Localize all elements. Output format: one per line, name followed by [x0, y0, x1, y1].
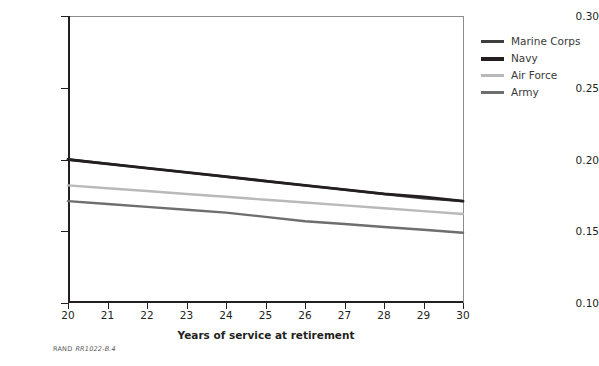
figure-footer: RANDRR1022-B.4: [53, 345, 116, 353]
legend-swatch-icon: [481, 40, 504, 43]
figure-container: 0.100.150.200.250.30 2021222324252627282…: [0, 0, 599, 366]
rand-wordmark: RAND: [53, 345, 72, 353]
legend-item-label: Army: [511, 87, 539, 98]
x-tick-label: 21: [93, 310, 123, 321]
legend-item-label: Marine Corps: [511, 36, 580, 47]
x-tick-label: 24: [211, 310, 241, 321]
y-tick-mark: [61, 303, 68, 304]
legend-item-label: Air Force: [511, 70, 557, 81]
x-tick-label: 29: [409, 310, 439, 321]
x-axis-title: Years of service at retirement: [68, 329, 464, 341]
y-tick-label: 0.30: [545, 11, 599, 22]
document-id: RR1022-B.4: [75, 345, 116, 353]
x-tick-label: 28: [369, 310, 399, 321]
plot-area: [68, 16, 463, 303]
x-tick-label: 30: [448, 310, 478, 321]
y-tick-mark: [61, 88, 68, 89]
legend-swatch-icon: [481, 91, 504, 94]
x-tick-label: 26: [290, 310, 320, 321]
x-tick-label: 22: [132, 310, 162, 321]
legend-item: Marine Corps: [481, 33, 580, 50]
legend-swatch-icon: [481, 57, 504, 61]
x-tick-label: 20: [53, 310, 83, 321]
y-tick-mark: [61, 231, 68, 232]
y-tick-label: 0.15: [545, 226, 599, 237]
y-tick-mark: [61, 160, 68, 161]
x-tick-label: 27: [330, 310, 360, 321]
legend-item: Air Force: [481, 67, 580, 84]
x-tick-label: 23: [172, 310, 202, 321]
x-tick-label: 25: [251, 310, 281, 321]
legend-item-label: Navy: [511, 53, 538, 64]
legend-swatch-icon: [481, 74, 504, 77]
chart-legend: Marine CorpsNavyAir ForceArmy: [481, 33, 580, 101]
legend-item: Army: [481, 84, 580, 101]
legend-item: Navy: [481, 50, 580, 67]
y-tick-label: 0.10: [545, 298, 599, 309]
y-tick-mark: [61, 16, 68, 17]
y-tick-label: 0.20: [545, 155, 599, 166]
plot-right-border: [463, 16, 464, 304]
